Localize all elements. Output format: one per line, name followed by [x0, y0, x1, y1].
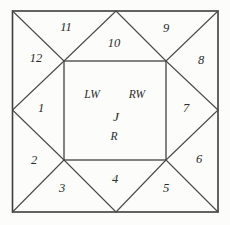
center-label-r: R [109, 130, 117, 142]
diagonal-bottom-left [13, 160, 65, 212]
triangle-5-label: 5 [163, 181, 169, 195]
quilt-block-figure: 1 2 3 4 5 6 7 8 9 10 11 12 LW RW J R [0, 0, 230, 225]
triangle-1-label: 1 [38, 101, 44, 115]
triangle-7-label: 7 [183, 101, 190, 115]
diagram-canvas: 1 2 3 4 5 6 7 8 9 10 11 12 LW RW J R [0, 0, 230, 225]
triangle-9-label: 9 [163, 21, 170, 35]
spoke-bottom-to-inner-bl [64, 160, 116, 212]
center-label-j: J [113, 109, 120, 124]
spoke-top-to-inner-tr [116, 11, 166, 61]
spoke-bottom-to-inner-br [116, 160, 166, 212]
triangle-10-label: 10 [108, 36, 121, 50]
triangle-6-label: 6 [196, 152, 203, 166]
diagonal-top-right [166, 11, 218, 61]
triangle-8-label: 8 [198, 53, 205, 67]
triangle-11-label: 11 [60, 20, 72, 34]
center-label-rw: RW [128, 88, 147, 100]
triangle-2-label: 2 [31, 153, 37, 167]
spoke-right-to-inner-br [166, 110, 218, 160]
spoke-right-to-inner-tr [166, 61, 218, 110]
diagonal-bottom-right [166, 160, 218, 212]
center-label-lw: LW [83, 88, 101, 100]
spoke-left-to-inner-bl [13, 110, 65, 160]
triangle-4-label: 4 [112, 172, 118, 186]
triangle-12-label: 12 [30, 51, 43, 65]
triangle-3-label: 3 [58, 181, 65, 195]
